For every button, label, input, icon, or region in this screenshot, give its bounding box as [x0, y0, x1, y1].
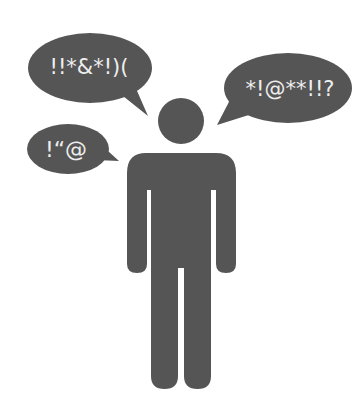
speech-bubble-right: *!@**!!?: [217, 53, 352, 125]
bubble-text-right: *!@**!!?: [246, 77, 335, 101]
person-icon: [127, 98, 236, 389]
illustration: !!*&*!)( *!@**!!? !“@: [0, 0, 363, 405]
person-head: [158, 98, 204, 144]
person-left-leg: [151, 262, 178, 389]
speech-bubble-top-left: !!*&*!)(: [28, 33, 152, 116]
speech-bubble-left: !“@: [27, 124, 119, 174]
person-right-leg: [184, 262, 211, 389]
bubble-text-top-left: !!*&*!)(: [49, 55, 128, 79]
person-torso: [127, 153, 236, 273]
bubble-text-left: !“@: [45, 137, 87, 162]
